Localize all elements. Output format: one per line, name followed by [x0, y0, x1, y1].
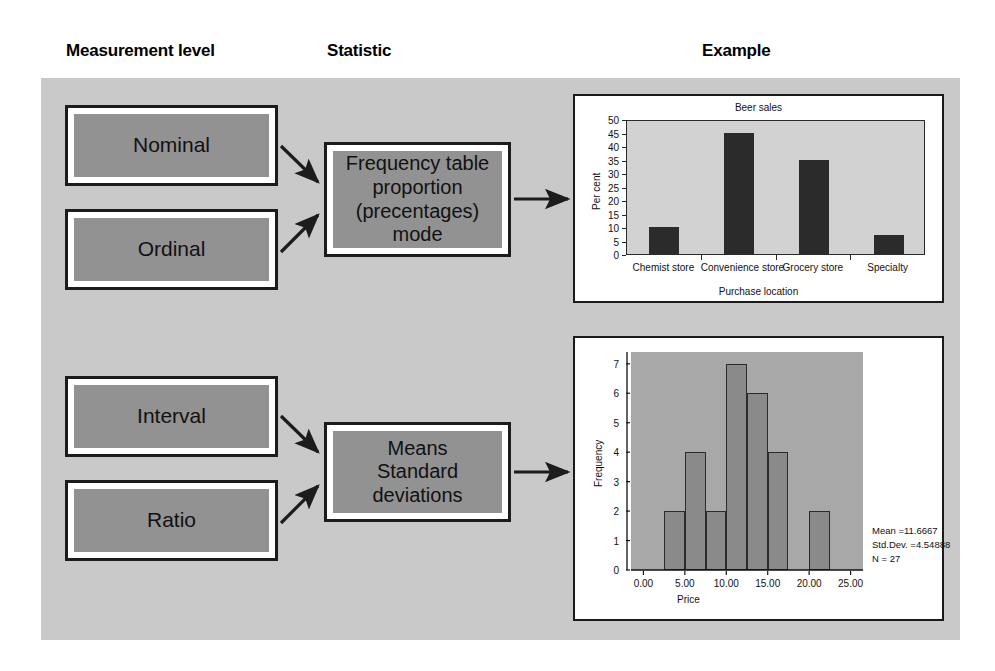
node-nominal-label: Nominal [74, 114, 269, 177]
bar-chart-y-tick-label: 25 [597, 182, 619, 193]
column-heading-measurement-level: Measurement level [66, 41, 215, 61]
bar-chart-x-tick-label: Specialty [850, 262, 925, 274]
histogram-bar [685, 452, 706, 570]
histogram-bar [747, 393, 768, 570]
bar-chart-y-tick-label: 20 [597, 196, 619, 207]
histogram-mean: Mean =11.6667 [872, 524, 950, 538]
bar-chart-x-tick-label: Convenience store [701, 262, 776, 274]
histogram-y-tick-label: 7 [601, 358, 619, 369]
column-heading-statistic: Statistic [327, 41, 391, 61]
arrow-interval-to-means [281, 416, 318, 452]
node-frequency-table-label: Frequency table proportion (precentages)… [333, 151, 502, 248]
histogram-y-tick-label: 4 [601, 447, 619, 458]
histogram-x-tick-label: 15.00 [746, 578, 790, 590]
diagram-canvas: Measurement level Statistic Example [0, 0, 995, 671]
bar-chart-y-tick-label: 50 [597, 115, 619, 126]
histogram-y-tick-label: 3 [601, 476, 619, 487]
node-ratio-label: Ratio [74, 489, 269, 552]
node-means-standard-deviations[interactable]: Means Standard deviations [324, 422, 511, 522]
bar-chart-y-tick-label: 10 [597, 223, 619, 234]
example-bar-chart: Beer sales Per cent 05101520253035404550… [573, 94, 944, 303]
bar-chart-title: Beer sales [575, 102, 942, 113]
bar-chart-bar [649, 227, 679, 254]
bar-chart-bar [724, 133, 754, 255]
bar-chart-x-tickmark [776, 255, 777, 260]
histogram-bar [809, 511, 830, 570]
histogram-x-tick-label: 5.00 [663, 578, 707, 590]
node-interval[interactable]: Interval [65, 376, 278, 457]
bar-chart-y-tick-label: 35 [597, 155, 619, 166]
node-means-label: Means Standard deviations [333, 431, 502, 513]
histogram-x-tick-label: 10.00 [704, 578, 748, 590]
bar-chart-y-tick-label: 0 [597, 250, 619, 261]
histogram-x-tick-label: 0.00 [621, 578, 665, 590]
histogram-y-tick-label: 2 [601, 506, 619, 517]
histogram-statistics-annotation: Mean =11.6667 Std.Dev. =4.54888 N = 27 [872, 524, 950, 565]
bar-chart-x-tickmark [701, 255, 702, 260]
arrow-nominal-to-frequency [281, 146, 318, 182]
histogram-x-tick-label: 25.00 [829, 578, 873, 590]
histogram-plot-area [631, 352, 863, 570]
bar-chart-x-tick-label: Grocery store [776, 262, 851, 274]
bar-chart-x-tick-label: Chemist store [626, 262, 701, 274]
bar-chart-x-axis-label: Purchase location [575, 286, 942, 297]
diagram-panel: Nominal Ordinal Interval Ratio Frequency… [41, 78, 960, 640]
histogram-bar [768, 452, 789, 570]
bar-chart-y-tick-label: 15 [597, 209, 619, 220]
column-heading-example: Example [702, 41, 771, 61]
bar-chart-y-tick-label: 45 [597, 128, 619, 139]
bar-chart-y-tick-label: 5 [597, 236, 619, 247]
example-histogram: Frequency 01234567 0.005.0010.0015.0020.… [573, 336, 944, 621]
node-ratio[interactable]: Ratio [65, 480, 278, 561]
histogram-bar [664, 511, 685, 570]
arrow-ratio-to-means [281, 486, 318, 523]
node-ordinal[interactable]: Ordinal [65, 209, 278, 290]
histogram-y-tick-label: 0 [601, 565, 619, 576]
histogram-y-tick-label: 6 [601, 388, 619, 399]
bar-chart-y-tick-label: 40 [597, 142, 619, 153]
node-frequency-table[interactable]: Frequency table proportion (precentages)… [324, 142, 511, 257]
bar-chart-y-tickmark [622, 255, 626, 256]
node-interval-label: Interval [74, 385, 269, 448]
bar-chart-bar [799, 160, 829, 255]
histogram-x-axis-label: Price [505, 594, 872, 605]
histogram-std-dev: Std.Dev. =4.54888 [872, 538, 950, 552]
histogram-y-tick-label: 5 [601, 417, 619, 428]
histogram-bar [726, 364, 747, 570]
bar-chart-bar [874, 235, 904, 254]
node-ordinal-label: Ordinal [74, 218, 269, 281]
node-nominal[interactable]: Nominal [65, 105, 278, 186]
histogram-bar [706, 511, 727, 570]
histogram-n: N = 27 [872, 552, 950, 566]
bar-chart-x-tickmark [850, 255, 851, 260]
histogram-y-tick-label: 1 [601, 535, 619, 546]
bar-chart-y-tick-label: 30 [597, 169, 619, 180]
bar-chart-plot-area [626, 120, 925, 255]
arrow-ordinal-to-frequency [281, 215, 318, 252]
histogram-x-tick-label: 20.00 [787, 578, 831, 590]
